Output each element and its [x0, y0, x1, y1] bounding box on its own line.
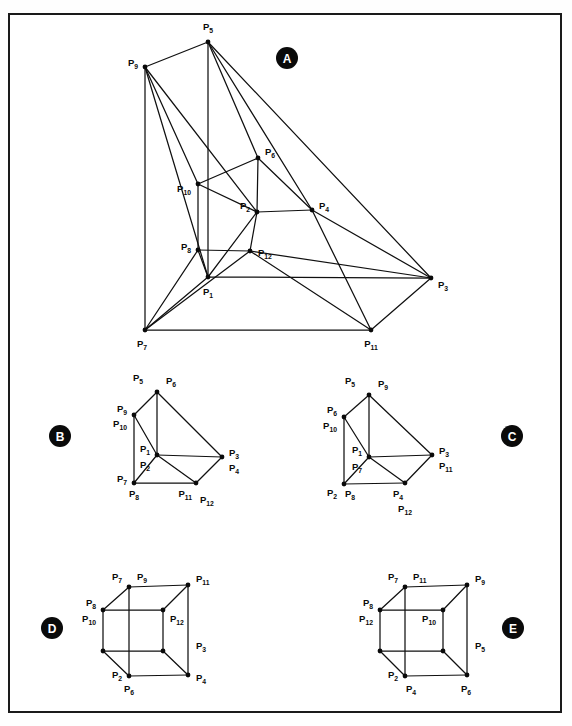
panel-c-label-4-0: P2 [327, 487, 337, 500]
panel-b-label-2-0: P1 [140, 443, 150, 456]
panel-b-label-5-1: P12 [200, 494, 214, 507]
panel-d-vertex-2 [101, 608, 106, 613]
panel-c-label-2-0: P1 [352, 444, 362, 457]
panel-d-edge-3 [163, 585, 188, 610]
panel-e-edge-0 [405, 585, 467, 587]
panel-d-edge-10 [163, 651, 188, 675]
panel-d-edge-11 [129, 675, 188, 676]
edge-P11-P3 [371, 278, 431, 330]
panel-c-label-1-0: P6 [327, 404, 337, 417]
panel-c-edge-5 [369, 455, 432, 457]
panel-c-label-3-1: P11 [439, 460, 453, 473]
panel-b-vertex-0 [155, 390, 160, 395]
panel-d-vertex-5 [161, 649, 166, 654]
panel-d-vertex-6 [127, 674, 132, 679]
panel-e-vertex-7 [465, 673, 470, 678]
panel-e-label-1-0: P9 [475, 573, 485, 586]
panel-b-label-4-0: P7 [117, 473, 127, 486]
vertex-P3 [429, 276, 434, 281]
figure-svg: P1P2P3P4P5P6P7P8P9P10P11P12P5P6P9P10P1P2… [0, 0, 572, 726]
edge-P4-P3 [312, 210, 431, 278]
label-P10: P10 [177, 183, 191, 196]
vertex-P9 [143, 65, 148, 70]
panel-c-label-3-0: P3 [439, 445, 449, 458]
panel-e-edge-3 [443, 585, 467, 610]
panel-badge-label-E: E [509, 622, 517, 636]
label-P3: P3 [438, 279, 448, 292]
panel-e-edge-11 [405, 675, 467, 676]
label-P4: P4 [319, 200, 329, 213]
panel-c-label-2-1: P7 [352, 461, 362, 474]
panel-e-label-7-0: P6 [461, 683, 471, 696]
vertex-P8 [196, 248, 201, 253]
label-P5: P5 [203, 21, 213, 34]
panel-c-vertex-4 [342, 482, 347, 487]
edge-P5-P9 [145, 42, 208, 67]
panel-d-vertex-7 [186, 673, 191, 678]
panel-c-edge-7 [369, 457, 405, 483]
panel-d-edge-1 [103, 587, 129, 610]
edge-P6-P2 [257, 158, 258, 212]
vertex-P6 [256, 156, 261, 161]
panel-badge-label-D: D [48, 622, 57, 636]
panel-b-vertex-2 [155, 453, 160, 458]
panel-b-vertex-1 [132, 413, 137, 418]
label-P7: P7 [137, 338, 147, 351]
panel-d-label-1-0: P11 [196, 573, 210, 586]
panel-c-label-0-0: P5 [345, 375, 355, 388]
edge-P7-P12 [145, 251, 250, 330]
vertex-P5 [206, 40, 211, 45]
panel-b-label-1-1: P10 [113, 418, 127, 431]
edge-P5-P6 [208, 42, 258, 158]
panel-c-edge-9 [344, 483, 405, 484]
panel-b-label-3-1: P4 [229, 462, 239, 475]
panel-c-label-5-0: P4 [393, 488, 403, 501]
edge-P2-P1 [208, 212, 257, 277]
label-P9: P9 [128, 57, 138, 70]
panel-c-vertex-0 [367, 393, 372, 398]
edge-P12-P11 [250, 251, 371, 330]
panel-c-edge-0 [344, 395, 369, 417]
panel-b-edge-5 [157, 455, 222, 457]
panel-c-label-5-1: P12 [398, 503, 412, 516]
panel-e-label-6-0: P2 [388, 669, 398, 682]
panel-e-vertex-3 [441, 608, 446, 613]
panel-e-label-0-0: P7 [388, 571, 398, 584]
panel-c-edge-2 [369, 395, 432, 455]
panel-d-vertex-3 [161, 608, 166, 613]
panel-b-edge-0 [134, 392, 157, 415]
panel-b-edge-2 [157, 392, 222, 457]
panel-d-label-2-1: P10 [82, 613, 96, 626]
vertex-P4 [310, 208, 315, 213]
panel-c-vertex-5 [403, 481, 408, 486]
panel-e-label-6-1: P4 [406, 683, 416, 696]
edge-P5-P3 [208, 42, 431, 278]
panel-b-label-2-1: P2 [140, 459, 150, 472]
panel-b-label-3-0: P3 [229, 447, 239, 460]
panel-c-vertex-2 [367, 455, 372, 460]
panel-c-edge-8 [405, 455, 432, 483]
panel-e-edge-1 [380, 587, 405, 610]
panel-c-label-0-1: P9 [378, 378, 388, 391]
panel-b-label-0-0: P5 [133, 372, 143, 385]
figure-canvas: P1P2P3P4P5P6P7P8P9P10P11P12P5P6P9P10P1P2… [0, 0, 572, 726]
label-P11: P11 [364, 338, 378, 351]
panel-b-edge-8 [196, 457, 222, 483]
panel-d-vertex-1 [186, 583, 191, 588]
panel-b-label-1-0: P9 [117, 403, 127, 416]
vertex-P10 [196, 182, 201, 187]
panel-b-label-4-1: P8 [129, 488, 139, 501]
panel-d-label-2-0: P8 [86, 597, 96, 610]
panel-e-vertex-4 [378, 649, 383, 654]
panel-e-vertex-0 [403, 585, 408, 590]
panel-e-label-2-0: P8 [363, 597, 373, 610]
edge-P1-P3 [208, 277, 431, 278]
edge-P8-P1 [198, 250, 208, 277]
panel-badge-label-B: B [56, 430, 65, 444]
panel-e-edge-10 [443, 651, 467, 675]
edge-P5-P4 [208, 42, 312, 210]
vertex-P11 [369, 328, 374, 333]
panel-d-label-6-0: P2 [112, 669, 122, 682]
panel-b-label-0-1: P6 [166, 375, 176, 388]
panel-b-edge-7 [157, 455, 196, 483]
